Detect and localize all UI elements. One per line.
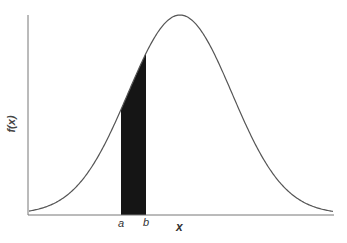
- shaded-area: [121, 53, 146, 215]
- normal-curve-chart: [0, 0, 347, 243]
- tick-b: b: [143, 216, 149, 228]
- density-curve: [29, 15, 333, 211]
- y-axis-label: f(x): [5, 115, 17, 132]
- x-axis-label: x: [176, 220, 183, 234]
- tick-a: a: [118, 217, 124, 229]
